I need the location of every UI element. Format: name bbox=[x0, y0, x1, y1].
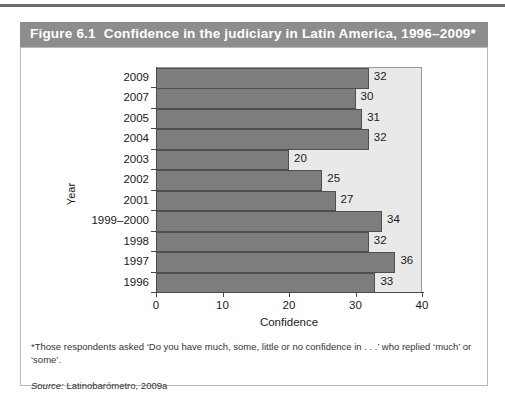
y-axis-tick-mark bbox=[151, 190, 156, 191]
figure-body: Year 20092007200520042003200220011999–20… bbox=[20, 47, 488, 386]
bar-row: 32 bbox=[156, 68, 421, 89]
bar bbox=[156, 211, 382, 232]
page-top-rule bbox=[0, 4, 505, 7]
bar bbox=[156, 68, 369, 89]
bar-value-label: 33 bbox=[380, 275, 393, 287]
plot-area: 3230313220252734323633 bbox=[156, 67, 422, 292]
y-axis-tick-mark bbox=[151, 128, 156, 129]
y-axis-tick-label: 2005 bbox=[123, 108, 149, 129]
y-axis-tick-label: 1999–2000 bbox=[91, 210, 149, 231]
figure-source-value: Latinobarómetro, 2009a bbox=[66, 380, 167, 391]
y-axis-line bbox=[156, 67, 157, 295]
bar-value-label: 34 bbox=[387, 213, 400, 225]
chart-region: Year 20092007200520042003200220011999–20… bbox=[21, 48, 487, 335]
bar-value-label: 31 bbox=[367, 111, 380, 123]
y-axis-tick-mark bbox=[151, 108, 156, 109]
figure-source-label: Source: bbox=[31, 380, 64, 391]
bar-row: 34 bbox=[156, 211, 421, 232]
x-axis-tick-label: 20 bbox=[274, 299, 304, 311]
y-axis-tick-mark bbox=[151, 251, 156, 252]
bar-value-label: 32 bbox=[374, 70, 387, 82]
bar bbox=[156, 129, 369, 150]
y-axis-tick-label: 2004 bbox=[123, 128, 149, 149]
x-axis-tick-mark bbox=[289, 293, 290, 297]
bar-value-label: 27 bbox=[341, 193, 354, 205]
y-axis-tick-mark bbox=[151, 169, 156, 170]
y-axis-tick-mark bbox=[151, 231, 156, 232]
y-axis-tick-label: 2007 bbox=[123, 87, 149, 108]
bar-row: 20 bbox=[156, 150, 421, 171]
y-axis-tick-label: 2002 bbox=[123, 169, 149, 190]
bar-value-label: 25 bbox=[327, 172, 340, 184]
y-axis-tick-label: 1998 bbox=[123, 231, 149, 252]
y-axis-tick-labels: 20092007200520042003200220011999–2000199… bbox=[21, 67, 154, 292]
y-axis-tick-label: 2009 bbox=[123, 67, 149, 88]
y-axis-tick-mark bbox=[151, 87, 156, 88]
bar bbox=[156, 150, 289, 171]
x-axis-tick-label: 30 bbox=[341, 299, 371, 311]
figure-notes: *Those respondents asked ‘Do you have mu… bbox=[31, 340, 477, 391]
y-axis-tick-label: 2003 bbox=[123, 149, 149, 170]
figure-footnote: *Those respondents asked ‘Do you have mu… bbox=[31, 340, 477, 366]
y-axis-tick-label: 1996 bbox=[123, 272, 149, 293]
bar bbox=[156, 88, 356, 109]
y-axis-tick-mark bbox=[151, 272, 156, 273]
x-axis-tick-mark bbox=[422, 293, 423, 297]
bar-row: 31 bbox=[156, 109, 421, 130]
x-axis-tick-label: 40 bbox=[407, 299, 437, 311]
figure-source: Source: Latinobarómetro, 2009a bbox=[31, 380, 477, 391]
bar-row: 32 bbox=[156, 232, 421, 253]
bar-value-label: 30 bbox=[361, 90, 374, 102]
figure-caption: Confidence in the judiciary in Latin Ame… bbox=[104, 26, 476, 41]
y-axis-tick-mark bbox=[151, 149, 156, 150]
bars-layer: 3230313220252734323633 bbox=[156, 68, 421, 292]
y-axis-tick-mark bbox=[151, 210, 156, 211]
bar bbox=[156, 109, 362, 130]
bar-row: 27 bbox=[156, 191, 421, 212]
bar bbox=[156, 232, 369, 253]
bar-value-label: 20 bbox=[294, 152, 307, 164]
x-axis-tick-label: 10 bbox=[208, 299, 238, 311]
x-axis-tick-label: 0 bbox=[141, 299, 171, 311]
y-axis-tick-label: 1997 bbox=[123, 251, 149, 272]
bar bbox=[156, 191, 336, 212]
x-axis-tick-mark bbox=[156, 293, 157, 297]
bar-value-label: 32 bbox=[374, 131, 387, 143]
figure-card: Figure 6.1 Confidence in the judiciary i… bbox=[20, 22, 488, 386]
bar-row: 33 bbox=[156, 273, 421, 294]
bar-row: 36 bbox=[156, 252, 421, 273]
bar-value-label: 32 bbox=[374, 234, 387, 246]
x-axis-title: Confidence bbox=[156, 316, 422, 328]
bar bbox=[156, 170, 322, 191]
bar-row: 25 bbox=[156, 170, 421, 191]
y-axis-tick-label: 2001 bbox=[123, 190, 149, 211]
figure-title: Figure 6.1 Confidence in the judiciary i… bbox=[30, 26, 476, 41]
bar bbox=[156, 273, 375, 294]
figure-number: Figure 6.1 bbox=[30, 26, 96, 41]
x-axis-tick-mark bbox=[223, 293, 224, 297]
bar-row: 30 bbox=[156, 88, 421, 109]
figure-title-bar: Figure 6.1 Confidence in the judiciary i… bbox=[20, 22, 488, 47]
bar bbox=[156, 252, 395, 273]
bar-value-label: 36 bbox=[400, 254, 413, 266]
bar-row: 32 bbox=[156, 129, 421, 150]
x-axis-tick-mark bbox=[356, 293, 357, 297]
